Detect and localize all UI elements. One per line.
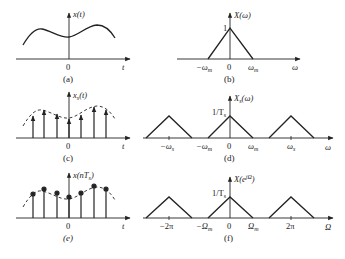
spectrum-replica-left xyxy=(146,116,192,138)
y-axis-label: x(t) xyxy=(72,9,85,19)
sampling-figure: x(t) t 0 (a) X(ω) 1 ω 0 −ωm ωm (b) xs(t)… xyxy=(0,0,345,259)
tick-omega-s: ωs xyxy=(287,141,296,152)
origin-label: 0 xyxy=(227,141,231,151)
spectrum-replica-right xyxy=(269,116,314,138)
tick-neg-omega-m: −ωm xyxy=(196,141,213,152)
origin-label: 0 xyxy=(66,141,70,151)
tick-omega-m: ωm xyxy=(248,141,259,152)
panel-caption: (b) xyxy=(224,74,235,84)
panel-d: Xs(ω) 1/Ts ω 0 −ωs −ωm ωm ωs (d) xyxy=(143,93,333,163)
spectrum-replica-center xyxy=(208,116,253,138)
panel-c: xs(t) t 0 (c) xyxy=(16,90,130,163)
y-axis-label: x(nTs) xyxy=(72,170,94,181)
x-axis-label: ω xyxy=(325,142,331,152)
x-axis-label: t xyxy=(122,141,125,151)
panel-f: X(ejΩ) 1/Ts Ω 0 −2π −Ωm Ωm 2π (f) xyxy=(143,174,333,243)
y-axis-label: X(ejΩ) xyxy=(233,174,255,184)
x-axis-label: t xyxy=(122,221,125,231)
origin-label: 0 xyxy=(227,62,231,72)
y-axis-label: X(ω) xyxy=(233,10,251,20)
spectrum-replica-right xyxy=(269,197,314,218)
panel-a: x(t) t 0 (a) xyxy=(16,9,130,84)
tick-neg-omega-m: −Ωm xyxy=(196,221,213,232)
x-axis-label: t xyxy=(122,62,125,72)
tick-neg-omega-s: −ωs xyxy=(160,141,175,152)
y-axis-label: xs(t) xyxy=(72,90,87,101)
x-axis-label: Ω xyxy=(325,222,331,232)
impulse-train xyxy=(33,107,106,138)
panel-e: x(nTs) t 0 (e) xyxy=(16,170,130,243)
peak-label: 1 xyxy=(223,23,227,33)
peak-label: 1/Ts xyxy=(212,107,227,118)
panel-caption: (d) xyxy=(224,153,235,163)
y-axis-label: Xs(ω) xyxy=(233,93,253,104)
spectrum-replica-left xyxy=(146,197,192,218)
origin-label: 0 xyxy=(66,221,70,231)
panel-caption: (c) xyxy=(63,153,73,163)
sample-stems xyxy=(31,184,108,218)
panel-caption: (e) xyxy=(63,233,73,243)
tick-2pi: 2π xyxy=(286,221,295,231)
panel-b: X(ω) 1 ω 0 −ωm ωm (b) xyxy=(177,10,300,84)
origin-label: 0 xyxy=(227,221,231,231)
peak-label: 1/Ts xyxy=(212,188,227,199)
spectrum-triangle xyxy=(208,28,253,59)
panel-caption: (f) xyxy=(224,233,233,243)
tick-neg-omega-m: −ωm xyxy=(196,62,213,73)
x-axis-label: ω xyxy=(292,62,298,72)
tick-omega-m: Ωm xyxy=(248,221,259,232)
tick-neg-2pi: −2π xyxy=(160,221,174,231)
spectrum-replica-center xyxy=(208,197,253,218)
origin-label: 0 xyxy=(66,62,70,72)
tick-omega-m: ωm xyxy=(248,62,259,73)
panel-caption: (a) xyxy=(63,74,73,84)
